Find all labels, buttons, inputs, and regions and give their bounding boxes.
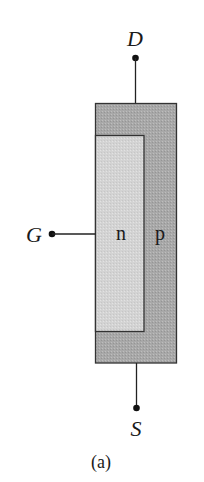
gate-label: G xyxy=(26,222,42,247)
p-region-label: p xyxy=(155,222,165,245)
n-region-label: n xyxy=(116,222,126,244)
source-label: S xyxy=(131,416,142,441)
gate-terminal: G xyxy=(26,222,95,247)
figure-caption: (a) xyxy=(91,452,111,473)
source-node-icon xyxy=(133,405,140,412)
drain-label: D xyxy=(126,26,143,51)
source-terminal: S xyxy=(131,363,142,441)
jfet-diagram: D n p G S (a) xyxy=(0,0,204,482)
drain-terminal: D xyxy=(126,26,143,103)
